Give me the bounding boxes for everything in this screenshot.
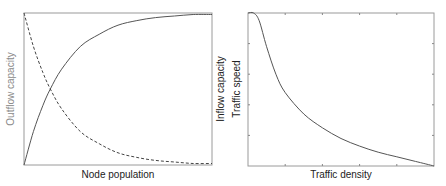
right-x-axis-label: Traffic density: [310, 169, 372, 180]
right-y-axis-label: Traffic speed: [231, 60, 242, 117]
left-plot-frame: [24, 13, 212, 165]
traffic-speed-curve: [248, 12, 434, 166]
right-axis-ticks: [248, 13, 434, 166]
inflow-capacity-curve: [24, 14, 212, 165]
figure: Node population Outflow capacity Inflow …: [0, 0, 446, 186]
outflow-capacity-curve: [24, 13, 212, 164]
right-plot-frame: [248, 13, 434, 166]
left-x-axis-label: Node population: [82, 169, 155, 180]
left-y-axis-label: Outflow capacity: [5, 52, 16, 125]
left-y2-axis-label: Inflow capacity: [215, 56, 226, 122]
right-chart: Traffic density Traffic speed: [231, 12, 434, 180]
left-chart: Node population Outflow capacity Inflow …: [5, 13, 226, 180]
